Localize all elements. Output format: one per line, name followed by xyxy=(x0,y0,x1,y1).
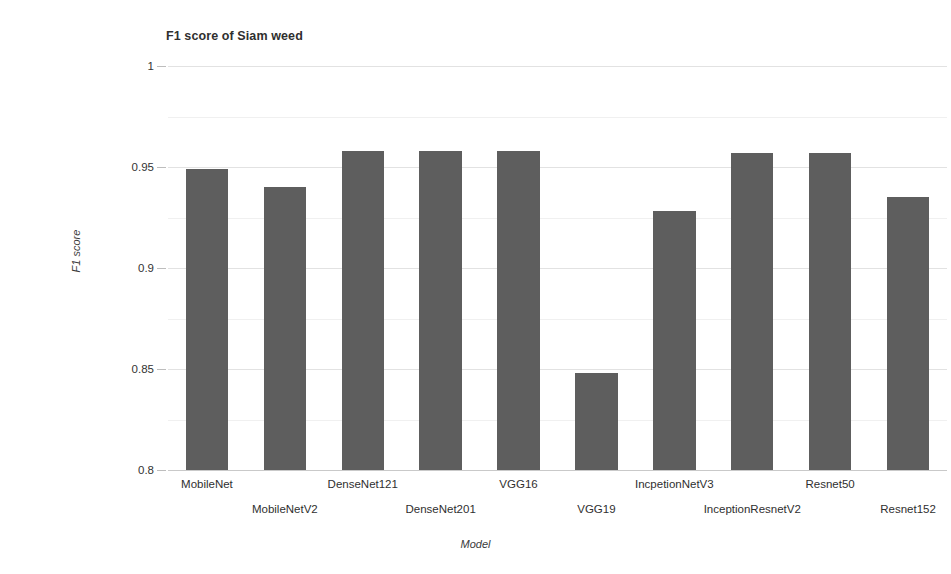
x-axis-tick-label: VGG16 xyxy=(499,478,537,490)
x-axis-tick-label: IncpetionNetV3 xyxy=(635,478,714,490)
chart-title: F1 score of Siam weed xyxy=(166,29,303,43)
x-axis-tick-label: InceptionResnetV2 xyxy=(704,503,801,515)
bar xyxy=(731,153,773,470)
x-axis-tick-label: Resnet152 xyxy=(880,503,936,515)
x-axis-tick-label: DenseNet121 xyxy=(328,478,398,490)
x-axis-tick-label: MobileNet xyxy=(181,478,233,490)
x-axis-title: Model xyxy=(0,538,951,550)
x-axis-tick-label: VGG19 xyxy=(577,503,615,515)
y-axis-tick-mark xyxy=(157,470,166,471)
bar xyxy=(575,373,617,470)
chart-container: F1 score of Siam weed F1 score 0.80.850.… xyxy=(0,0,951,574)
plot-area xyxy=(168,66,947,470)
bar xyxy=(419,151,461,470)
y-axis-tick-label: 0.8 xyxy=(102,464,154,476)
bar xyxy=(342,151,384,470)
y-axis-tick-mark xyxy=(157,268,166,269)
y-axis-tick-mark xyxy=(157,369,166,370)
y-axis-tick-label: 0.85 xyxy=(102,363,154,375)
bar xyxy=(809,153,851,470)
x-axis-tick-label: Resnet50 xyxy=(806,478,855,490)
gridline-major xyxy=(168,66,947,67)
x-axis-tick-label: MobileNetV2 xyxy=(252,503,318,515)
y-axis-tick-mark xyxy=(157,66,166,67)
bar xyxy=(497,151,539,470)
bar xyxy=(186,169,228,470)
gridline-minor xyxy=(168,117,947,118)
y-axis-tick-label: 0.95 xyxy=(102,161,154,173)
bar xyxy=(653,211,695,470)
x-axis-tick-label: DenseNet201 xyxy=(405,503,475,515)
bar xyxy=(887,197,929,470)
y-axis-tick-label: 0.9 xyxy=(102,262,154,274)
x-axis-tick-labels: MobileNetMobileNetV2DenseNet121DenseNet2… xyxy=(168,470,947,530)
y-axis-title: F1 score xyxy=(70,206,82,296)
y-axis-tick-mark xyxy=(157,167,166,168)
bar xyxy=(264,187,306,470)
y-axis-tick-label: 1 xyxy=(102,60,154,72)
